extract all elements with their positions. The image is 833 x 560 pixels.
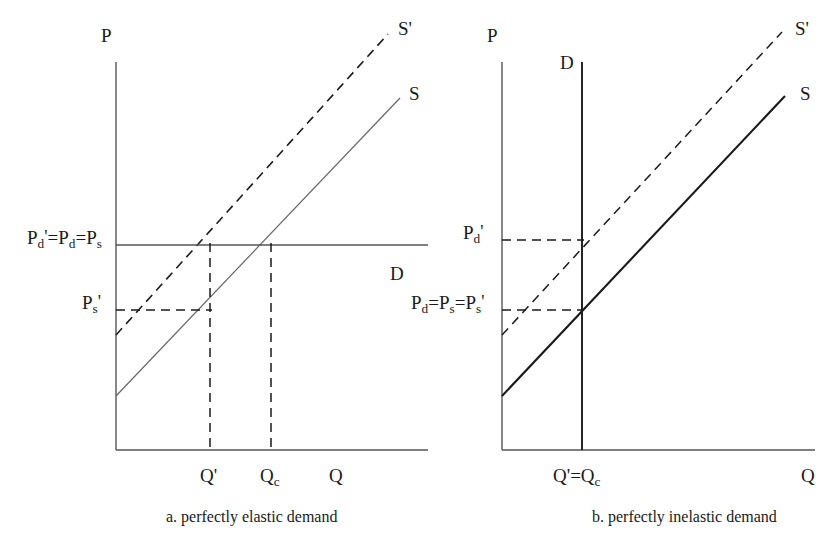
panel-b-caption: b. perfectly inelastic demand xyxy=(592,508,777,526)
economics-figure: P S' S D Pd'=Pd=Ps Ps' Q' Qc Q P D S' S … xyxy=(0,0,833,560)
price-p-1: P xyxy=(27,227,38,248)
panel-b-curve-s-prime-label: S' xyxy=(795,19,809,38)
panel-a-curve-d-label: D xyxy=(390,264,404,283)
panel-b-price-label-pd-prime: Pd' xyxy=(463,223,483,242)
price-p-3: P xyxy=(463,222,474,243)
price-sub-s-3: s xyxy=(450,301,455,316)
panel-b-price-label-pd-ps-ps-prime: Pd=Ps=Ps' xyxy=(411,293,484,312)
price-eq-1: =P xyxy=(47,227,68,248)
panel-a-curve-s xyxy=(116,98,400,396)
qprime-qc-sub: c xyxy=(595,474,601,489)
price-eq-2: =P xyxy=(75,227,96,248)
qc-main: Q xyxy=(260,465,274,486)
panel-b-x-axis-label: Q xyxy=(801,466,815,485)
panel-b-group xyxy=(502,32,815,450)
price-sub-s-1: s xyxy=(97,236,102,251)
price-sub-s-2: s xyxy=(93,301,98,316)
price-sub-d-2: d xyxy=(69,236,76,251)
price-prime-4: ' xyxy=(481,292,484,312)
panel-a-group xyxy=(116,34,428,450)
qprime-qc-main: Q'=Q xyxy=(553,465,595,486)
price-eq-4: =P xyxy=(455,292,476,313)
panel-b-curve-s-prime xyxy=(502,32,782,335)
panel-b-curve-s-label: S xyxy=(800,84,811,103)
panel-a-price-label-pd-prime-pd-ps: Pd'=Pd=Ps xyxy=(27,228,102,247)
price-p-4: P xyxy=(411,292,422,313)
price-prime-3: ' xyxy=(480,222,483,242)
panel-a-curve-s-prime xyxy=(116,34,388,335)
panel-a-curve-s-prime-label: S' xyxy=(398,19,412,38)
price-prime-1: ' xyxy=(44,227,47,247)
panel-b-curve-d-label: D xyxy=(560,53,574,72)
panel-b-curve-s xyxy=(502,96,785,396)
panel-a-quantity-label-q-prime: Q' xyxy=(200,466,217,485)
panel-a-x-axis-label: Q xyxy=(329,466,343,485)
price-sub-d-4: d xyxy=(422,301,429,316)
panel-a-y-axis-label: P xyxy=(101,26,112,45)
panel-a-price-label-ps-prime: Ps' xyxy=(82,293,101,312)
price-eq-3: =P xyxy=(428,292,449,313)
price-prime-2: ' xyxy=(98,292,101,312)
panel-b-quantity-label-qprime-qc: Q'=Qc xyxy=(553,466,601,485)
panel-a-curve-s-label: S xyxy=(409,84,420,103)
panel-a-caption: a. perfectly elastic demand xyxy=(166,508,337,526)
qc-sub: c xyxy=(274,474,280,489)
panel-a-quantity-label-qc: Qc xyxy=(260,466,280,485)
panel-b-y-axis-label: P xyxy=(487,26,498,45)
price-p-2: P xyxy=(82,292,93,313)
